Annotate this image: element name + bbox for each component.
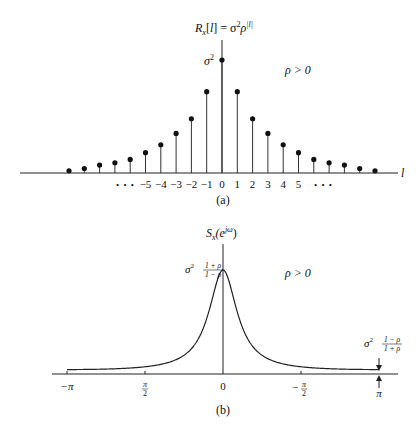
tick-label: 0	[220, 380, 226, 392]
stem-marker	[128, 157, 133, 162]
chart-b-param-label: ρ > 0	[284, 266, 311, 280]
svg-text:σ2: σ2	[364, 336, 373, 349]
chart-a-param-label: ρ > 0	[284, 63, 311, 77]
stem-marker	[219, 57, 224, 62]
svg-text:1 − ρ: 1 − ρ	[384, 335, 401, 344]
tick-label: 0	[219, 178, 225, 190]
tick-label: 1	[235, 178, 241, 190]
stem-marker	[311, 157, 316, 162]
chart-a-stems	[66, 57, 377, 173]
tick-label: −3	[170, 178, 182, 190]
tick-label: 2	[250, 178, 256, 190]
stem-marker	[82, 166, 87, 171]
tick-label: π	[376, 387, 382, 399]
tick-label: −1	[201, 178, 213, 190]
tick-label-den: 2	[143, 389, 147, 398]
chart-a-x-label: l	[401, 166, 405, 180]
svg-text:1 + ρ: 1 + ρ	[384, 344, 401, 353]
tick-label-num: π	[143, 380, 148, 389]
tick-sign: −	[292, 381, 298, 393]
chart-a-peak-label: σ2	[204, 53, 214, 68]
tick-label: 5	[296, 178, 302, 190]
stem-marker	[281, 142, 286, 147]
arrow-up-icon	[376, 375, 382, 381]
svg-text:1 − ρ: 1 − ρ	[205, 270, 222, 279]
tick-label-num: π	[302, 380, 307, 389]
power-spectrum-chart: Sx(ejω) −ππ20−π2π σ21 + ρ1 − ρ σ21 − ρ1 …	[52, 225, 402, 417]
chart-a-tick-labels: −5−4−3−2−1012345	[140, 178, 302, 190]
tick-label: 4	[280, 178, 286, 190]
chart-a-caption: (a)	[216, 193, 229, 207]
chart-b-title: Sx(ejω)	[206, 225, 237, 242]
svg-text:1 + ρ: 1 + ρ	[205, 261, 222, 270]
chart-a-ellipsis-right: • • •	[314, 180, 333, 190]
autocorrelation-stem-chart: Rx[l] = σ2ρ|l| −5−4−3−2−1012345 • • • • …	[20, 20, 405, 207]
stem-marker	[250, 116, 255, 121]
tick-label: 3	[265, 178, 271, 190]
tick-label: −2	[186, 178, 198, 190]
svg-text:σ2: σ2	[185, 262, 194, 275]
chart-b-peak-label: σ21 + ρ1 − ρ	[185, 261, 223, 279]
stem-marker	[235, 89, 240, 94]
stem-marker	[327, 160, 332, 165]
stem-marker	[204, 89, 209, 94]
stem-marker	[174, 131, 179, 136]
chart-b-min-arrows	[376, 358, 382, 388]
figure: Rx[l] = σ2ρ|l| −5−4−3−2−1012345 • • • • …	[0, 0, 420, 427]
chart-a-title: Rx[l] = σ2ρ|l|	[194, 20, 253, 37]
chart-a-ellipsis-left: • • •	[116, 180, 135, 190]
stem-marker	[66, 168, 71, 173]
stem-marker	[189, 116, 194, 121]
tick-label: −π	[61, 380, 74, 392]
tick-label-den: 2	[302, 389, 306, 398]
stem-marker	[158, 142, 163, 147]
stem-marker	[372, 168, 377, 173]
stem-marker	[296, 150, 301, 155]
stem-marker	[112, 160, 117, 165]
stem-marker	[342, 162, 347, 167]
chart-b-caption: (b)	[216, 403, 230, 417]
tick-label: −4	[155, 178, 167, 190]
stem-marker	[265, 131, 270, 136]
stem-marker	[97, 162, 102, 167]
chart-b-ticks: −ππ20−π2π	[61, 371, 383, 399]
stem-marker	[357, 166, 362, 171]
chart-b-min-label: σ21 − ρ1 + ρ	[364, 335, 402, 353]
tick-label: −5	[140, 178, 152, 190]
stem-marker	[143, 150, 148, 155]
